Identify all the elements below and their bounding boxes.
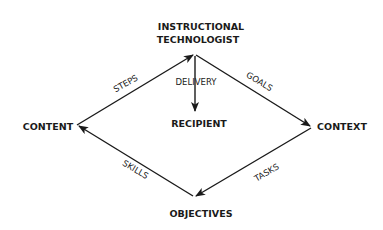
- edge-label-steps: STEPS: [112, 73, 140, 95]
- edge-context-to-objectives: [196, 128, 311, 196]
- edge-content-to-technologist: [77, 55, 193, 125]
- edge-label-goals: GOALS: [245, 70, 275, 94]
- instructional-design-diagram: INSTRUCTIONAL TECHNOLOGIST CONTENT CONTE…: [0, 0, 383, 230]
- node-context: CONTEXT: [317, 121, 367, 132]
- node-recipient: RECIPIENT: [171, 118, 227, 129]
- node-objectives: OBJECTIVES: [169, 208, 232, 219]
- edge-label-tasks: TASKS: [252, 161, 281, 184]
- node-content: CONTENT: [23, 121, 74, 132]
- node-technologist: TECHNOLOGIST: [157, 34, 240, 45]
- diagram-canvas: INSTRUCTIONAL TECHNOLOGIST CONTENT CONTE…: [0, 0, 383, 230]
- edge-label-delivery: DELIVERY: [176, 77, 218, 87]
- edge-technologist-to-context: [196, 55, 310, 126]
- node-instructional: INSTRUCTIONAL: [158, 21, 244, 32]
- edge-objectives-to-content: [79, 126, 193, 196]
